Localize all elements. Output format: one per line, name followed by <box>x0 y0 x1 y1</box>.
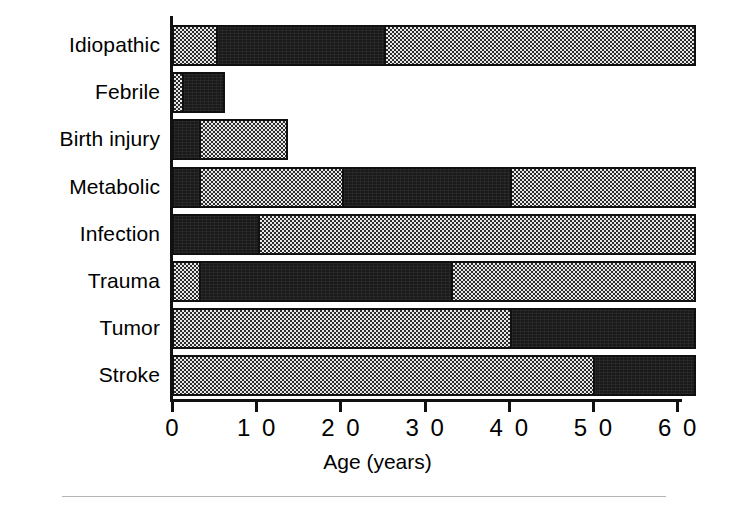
bar-segment-dark <box>593 357 694 394</box>
stacked-bar <box>172 72 225 113</box>
stacked-bar <box>172 119 288 160</box>
x-axis-title-text: Age (years) <box>323 450 432 474</box>
bar-segment-light <box>174 357 593 394</box>
y-axis-label-birth-injury: Birth injury <box>0 127 160 150</box>
stacked-bar <box>172 25 696 66</box>
plot-area <box>172 18 702 400</box>
bar-segment-dark <box>174 216 258 253</box>
stacked-bar <box>172 308 696 349</box>
stacked-bar <box>172 355 696 396</box>
x-tick-mark <box>255 400 258 412</box>
x-tick-mark <box>424 400 427 412</box>
bar-row <box>172 305 702 352</box>
bar-segment-light <box>199 169 342 206</box>
bar-segment-dark <box>199 263 451 300</box>
bar-segment-light <box>451 263 694 300</box>
bar-segment-light <box>258 216 694 253</box>
bar-row <box>172 22 702 69</box>
bar-segment-dark <box>174 121 199 158</box>
stacked-bar <box>172 214 696 255</box>
y-axis-label-infection: Infection <box>0 222 160 245</box>
x-tick-mark <box>171 400 174 412</box>
stacked-bar <box>172 261 696 302</box>
bar-segment-light <box>510 169 695 206</box>
bar-row <box>172 69 702 116</box>
stacked-bar <box>172 167 696 208</box>
bar-segment-dark <box>510 310 695 347</box>
x-tick-label: 5 0 <box>563 414 623 442</box>
x-tick-mark <box>676 400 679 412</box>
bar-row <box>172 258 702 305</box>
y-axis-label-tumor: Tumor <box>0 316 160 339</box>
x-tick-label: 1 0 <box>226 414 286 442</box>
x-tick-label: 3 0 <box>395 414 455 442</box>
bar-segment-dark <box>342 169 510 206</box>
footer-rule <box>62 496 666 497</box>
age-distribution-chart: IdiopathicFebrileBirth injuryMetabolicIn… <box>0 0 731 511</box>
bar-row <box>172 352 702 399</box>
bar-row <box>172 116 702 163</box>
x-tick-label: 2 0 <box>310 414 370 442</box>
x-tick-mark <box>339 400 342 412</box>
x-tick-label: 4 0 <box>479 414 539 442</box>
bar-segment-dark <box>174 169 199 206</box>
x-tick-label: 6 0 <box>647 414 707 442</box>
x-tick-mark <box>508 400 511 412</box>
x-tick-mark <box>592 400 595 412</box>
y-axis-label-stroke: Stroke <box>0 363 160 386</box>
bar-segment-light <box>384 27 694 64</box>
y-axis-label-febrile: Febrile <box>0 80 160 103</box>
bar-segment-dark <box>216 27 384 64</box>
bar-row <box>172 164 702 211</box>
bar-segment-dark <box>182 74 222 111</box>
x-tick-label: 0 <box>142 414 202 442</box>
bar-segment-light <box>174 310 510 347</box>
bar-row <box>172 211 702 258</box>
x-axis-title: Age (years) <box>0 450 731 474</box>
bar-segment-light <box>174 27 216 64</box>
bar-segment-light <box>174 74 182 111</box>
bar-segment-light <box>199 121 286 158</box>
bar-segment-light <box>174 263 199 300</box>
y-axis-label-metabolic: Metabolic <box>0 175 160 198</box>
y-axis-label-idiopathic: Idiopathic <box>0 33 160 56</box>
y-axis-label-trauma: Trauma <box>0 269 160 292</box>
